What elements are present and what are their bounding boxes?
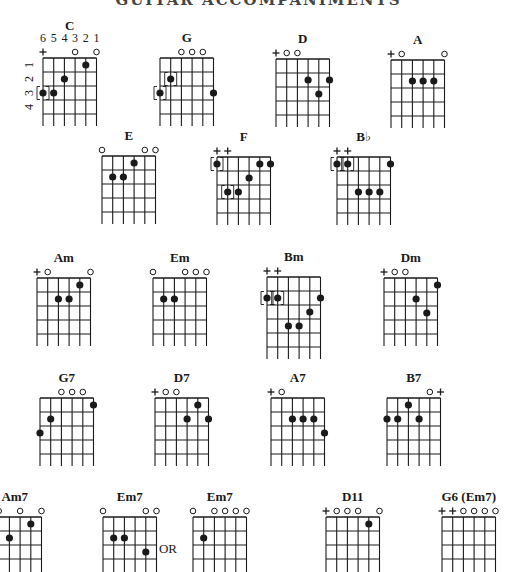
finger-dot-icon — [306, 308, 313, 315]
finger-dot-icon — [387, 160, 394, 167]
open-string-icon — [154, 508, 160, 514]
chord-diagram-b-: B♭ — [331, 129, 394, 225]
open-string-icon — [461, 508, 467, 514]
finger-dot-icon — [205, 415, 212, 422]
muted-string-icon — [224, 148, 231, 155]
chord-diagram-am: Am — [34, 250, 94, 346]
chord-diagram-em: Em — [150, 250, 209, 346]
open-string-icon — [174, 389, 180, 395]
open-string-icon — [190, 508, 196, 514]
finger-dot-icon — [61, 75, 68, 82]
open-string-icon — [163, 389, 169, 395]
muted-string-icon — [264, 268, 271, 275]
open-string-icon — [153, 147, 159, 153]
finger-dot-icon — [413, 295, 420, 302]
finger-dot-icon — [315, 90, 322, 97]
open-string-icon — [142, 147, 148, 153]
finger-dot-icon — [200, 534, 207, 541]
chord-name: G — [182, 30, 192, 45]
finger-dot-icon — [376, 188, 383, 195]
chord-name: Dm — [401, 250, 421, 265]
muted-string-icon — [439, 508, 446, 515]
open-string-icon — [72, 49, 78, 55]
muted-string-icon — [437, 389, 444, 396]
finger-dot-icon — [39, 89, 46, 96]
string-number-label: 1 — [94, 31, 100, 45]
finger-dot-icon — [246, 174, 253, 181]
finger-dot-icon — [263, 294, 270, 301]
chord-diagram-am7: Am7 — [0, 489, 44, 572]
fret-number-label: 3 — [22, 90, 36, 96]
chord-diagram-em7: Em7 — [100, 489, 159, 572]
open-string-icon — [88, 269, 94, 275]
open-string-icon — [193, 269, 199, 275]
finger-dot-icon — [321, 429, 328, 436]
muted-string-icon — [273, 50, 280, 57]
open-string-icon — [200, 49, 206, 55]
finger-dot-icon — [267, 160, 274, 167]
finger-dot-icon — [434, 281, 441, 288]
open-string-icon — [284, 50, 290, 56]
finger-dot-icon — [333, 160, 340, 167]
open-string-icon — [179, 49, 185, 55]
open-string-icon — [403, 269, 409, 275]
open-string-icon — [399, 51, 405, 57]
open-string-icon — [334, 508, 340, 514]
chord-chart: C6543211234GDAEFB♭AmEmBmDmG7D7A7B7Am7Em7… — [0, 0, 517, 572]
open-string-icon — [17, 508, 23, 514]
string-number-label: 3 — [72, 31, 78, 45]
finger-dot-icon — [383, 415, 390, 422]
muted-string-icon — [214, 148, 221, 155]
string-number-label: 6 — [40, 31, 46, 45]
finger-dot-icon — [27, 520, 34, 527]
open-string-icon — [99, 147, 105, 153]
open-string-icon — [45, 269, 51, 275]
finger-dot-icon — [76, 281, 83, 288]
muted-string-icon — [449, 508, 456, 515]
open-string-icon — [355, 508, 361, 514]
or-label: OR — [159, 541, 177, 556]
finger-dot-icon — [224, 188, 231, 195]
muted-string-icon — [344, 148, 351, 155]
chord-diagram-dm: Dm — [381, 250, 442, 346]
finger-dot-icon — [365, 520, 372, 527]
finger-dot-icon — [210, 89, 217, 96]
chord-name: F — [240, 129, 248, 144]
open-string-icon — [222, 508, 228, 514]
open-string-icon — [100, 508, 106, 514]
open-string-icon — [244, 508, 250, 514]
finger-dot-icon — [131, 159, 138, 166]
finger-dot-icon — [156, 89, 163, 96]
chord-name: Am — [54, 250, 74, 265]
finger-dot-icon — [305, 76, 312, 83]
muted-string-icon — [34, 269, 41, 276]
open-string-icon — [427, 389, 433, 395]
open-string-icon — [150, 269, 156, 275]
finger-dot-icon — [142, 548, 149, 555]
finger-dot-icon — [184, 415, 191, 422]
finger-dot-icon — [66, 295, 73, 302]
muted-string-icon — [323, 508, 330, 515]
open-string-icon — [94, 49, 100, 55]
finger-dot-icon — [47, 415, 54, 422]
chord-diagram-f: F — [211, 129, 274, 225]
finger-dot-icon — [416, 415, 423, 422]
chord-name: B7 — [406, 370, 422, 385]
finger-dot-icon — [344, 160, 351, 167]
open-string-icon — [189, 49, 195, 55]
chord-diagram-e: E — [99, 128, 158, 224]
fret-number-label: 2 — [22, 76, 36, 82]
finger-dot-icon — [121, 534, 128, 541]
chord-diagram-bm: Bm — [261, 249, 324, 359]
open-string-icon — [59, 389, 65, 395]
chord-name: Em7 — [117, 489, 144, 504]
finger-dot-icon — [213, 160, 220, 167]
chord-diagram-d7: D7 — [152, 370, 213, 466]
chord-name: D7 — [174, 370, 190, 385]
string-number-label: 5 — [51, 31, 57, 45]
chord-name: D11 — [342, 489, 364, 504]
finger-dot-icon — [355, 188, 362, 195]
open-string-icon — [182, 269, 188, 275]
chord-diagram-a7: A7 — [268, 370, 329, 466]
open-string-icon — [442, 51, 448, 57]
